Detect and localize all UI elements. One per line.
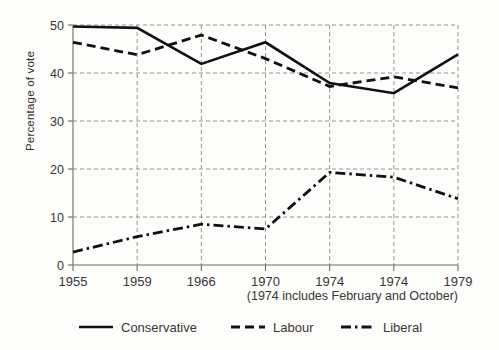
y-tick-label: 40 xyxy=(50,67,64,81)
legend-label: Liberal xyxy=(383,320,422,335)
x-tick-label: 1974 xyxy=(315,274,344,289)
y-tick-label: 0 xyxy=(57,259,64,273)
gridlines xyxy=(73,25,458,265)
chart-canvas: 01020304050 1955195919661970197419741979… xyxy=(0,0,499,350)
y-tick-label: 20 xyxy=(50,163,64,177)
x-tick-label: 1974 xyxy=(379,274,408,289)
legend-item-conservative[interactable]: Conservative xyxy=(79,320,197,335)
legend-label: Conservative xyxy=(121,320,197,335)
x-tick-label: 1970 xyxy=(251,274,280,289)
legend-item-liberal[interactable]: Liberal xyxy=(341,320,422,335)
x-axis-ticks: 1955195919661970197419741979 xyxy=(59,265,473,289)
y-axis-ticks: 01020304050 xyxy=(50,19,73,273)
series-line-liberal xyxy=(73,172,458,252)
x-tick-label: 1955 xyxy=(59,274,88,289)
x-tick-label: 1966 xyxy=(187,274,216,289)
x-tick-label: 1979 xyxy=(444,274,473,289)
legend-label: Labour xyxy=(273,320,314,335)
y-tick-label: 30 xyxy=(50,115,64,129)
chart-note: (1974 includes February and October) xyxy=(247,289,458,303)
legend-item-labour[interactable]: Labour xyxy=(231,320,314,335)
x-tick-label: 1959 xyxy=(123,274,152,289)
legend: ConservativeLabourLiberal xyxy=(79,320,422,335)
y-tick-label: 10 xyxy=(50,211,64,225)
y-tick-label: 50 xyxy=(50,19,64,33)
line-chart: Percentage of vote 01020304050 195519591… xyxy=(0,0,499,350)
